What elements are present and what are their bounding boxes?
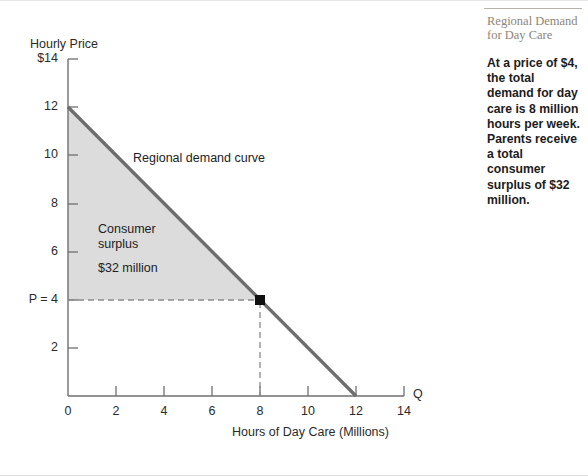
x-tick-label-12: 12 xyxy=(341,404,371,418)
x-tick-label-6: 6 xyxy=(197,404,227,418)
x-tick-label-4: 4 xyxy=(149,404,179,418)
y-axis-title: Hourly Price xyxy=(30,37,98,51)
y-tick-label-price: P = 4 xyxy=(6,292,58,306)
demand-curve-label: Regional demand curve xyxy=(133,151,265,166)
y-tick-label-12: 12 xyxy=(14,99,58,113)
caption-sidebar: Regional Demand for Day Care At a price … xyxy=(487,1,582,476)
figure-panel: Hourly Price Hours of Day Care (Millions… xyxy=(0,0,588,476)
y-tick-label-8: 8 xyxy=(14,196,58,210)
y-tick-label-10: 10 xyxy=(14,147,58,161)
y-tick-label-6: 6 xyxy=(14,244,58,258)
chart-area: Hourly Price Hours of Day Care (Millions… xyxy=(0,1,460,476)
x-tick-label-0: 0 xyxy=(53,404,83,418)
caption-body: At a price of $4, the total demand for d… xyxy=(487,56,582,208)
x-tick-label-14: 14 xyxy=(389,404,419,418)
x-tick-label-10: 10 xyxy=(293,404,323,418)
sidebar-divider xyxy=(484,8,582,9)
y-tick-label-14: $14 xyxy=(14,51,58,65)
x-axis-end-label-q: Q xyxy=(413,387,423,401)
consumer-surplus-label: Consumer surplus xyxy=(98,222,156,252)
equilibrium-point-marker xyxy=(255,295,265,305)
x-tick-label-8: 8 xyxy=(245,404,275,418)
y-axis-ticks xyxy=(68,59,78,348)
caption-title: Regional Demand for Day Care xyxy=(487,14,584,42)
y-tick-label-2: 2 xyxy=(14,340,58,354)
consumer-surplus-value: $32 million xyxy=(98,261,158,276)
x-axis-title: Hours of Day Care (Millions) xyxy=(232,425,389,439)
x-tick-label-2: 2 xyxy=(101,404,131,418)
